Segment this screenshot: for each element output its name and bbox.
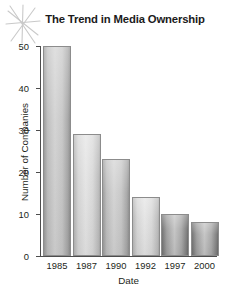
y-tick-label-10: 10 — [19, 209, 29, 220]
y-tick-10: 10 — [36, 214, 40, 215]
y-tick-label-40: 40 — [19, 83, 29, 94]
x-tick-label-1990: 1990 — [106, 260, 127, 271]
x-tick-label-1987: 1987 — [76, 260, 97, 271]
x-tick-label-1997: 1997 — [165, 260, 186, 271]
bar-1992 — [132, 197, 160, 256]
y-tick-label-0: 0 — [24, 251, 29, 262]
x-axis-label: Date — [40, 275, 217, 286]
bar-1990 — [102, 159, 130, 256]
x-tick-label-1985: 1985 — [47, 260, 68, 271]
chart-title: The Trend in Media Ownership — [30, 13, 220, 25]
y-tick-30: 30 — [36, 130, 40, 131]
y-tick-0: 0 — [36, 256, 40, 257]
plot-area: 0 10 20 30 40 50 Number of Companies 198… — [40, 46, 217, 257]
y-axis-label: Number of Companies — [19, 102, 30, 200]
x-tick-label-1992: 1992 — [135, 260, 156, 271]
bar-1997 — [161, 214, 189, 256]
bar-chart: The Trend in Media Ownership 0 10 20 30 … — [0, 0, 225, 291]
bar-group — [41, 46, 217, 257]
y-tick-label-50: 50 — [19, 41, 29, 52]
bar-1987 — [73, 134, 101, 256]
x-tick-label-2000: 2000 — [194, 260, 215, 271]
y-tick-20: 20 — [36, 172, 40, 173]
bar-2000 — [191, 222, 219, 256]
y-tick-40: 40 — [36, 88, 40, 89]
bar-1985 — [43, 46, 71, 256]
y-tick-50: 50 — [36, 46, 40, 47]
